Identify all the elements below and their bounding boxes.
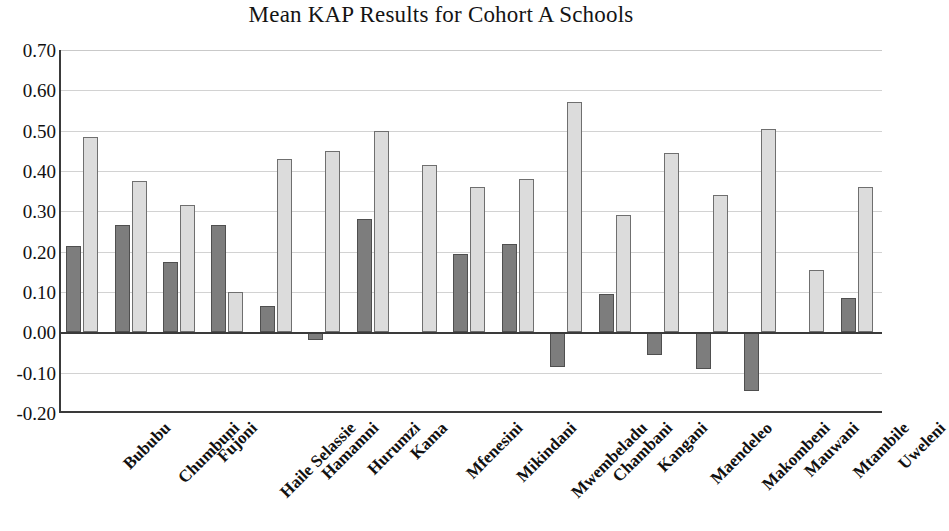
bar-series-2 xyxy=(761,129,776,333)
y-axis-tick-label: 0.40 xyxy=(4,162,56,181)
bar-group xyxy=(351,50,399,413)
bar-series-2 xyxy=(713,195,728,332)
bar-series-2 xyxy=(180,205,195,332)
bar-group xyxy=(497,50,545,413)
bar-group xyxy=(642,50,690,413)
bar-series-2 xyxy=(83,137,98,333)
bar-group xyxy=(787,50,835,413)
y-axis-tick-label: 0.30 xyxy=(4,202,56,221)
bar-group xyxy=(448,50,496,413)
bar-series-2 xyxy=(228,292,243,332)
bar-group xyxy=(545,50,593,413)
x-axis: BububuChumbuniFujoniHaile SelassieHamamn… xyxy=(59,413,882,531)
bar-group xyxy=(206,50,254,413)
bar-series-1 xyxy=(357,219,372,332)
bar-group xyxy=(836,50,882,413)
bar-series-1 xyxy=(647,332,662,354)
bar-series-2 xyxy=(858,187,873,332)
bar-group xyxy=(400,50,448,413)
chart-title: Mean KAP Results for Cohort A Schools xyxy=(0,2,882,28)
x-axis-tick-label: Bububu xyxy=(120,419,174,473)
bar-series-1 xyxy=(115,225,130,332)
y-axis-tick-label: 0.60 xyxy=(4,81,56,100)
y-axis-tick-label: -0.20 xyxy=(4,404,56,423)
bar-series-1 xyxy=(453,254,468,333)
bar-group xyxy=(739,50,787,413)
bar-series-2 xyxy=(567,102,582,332)
bar-series-1 xyxy=(744,332,759,390)
bar-series-1 xyxy=(260,306,275,332)
bar-group xyxy=(255,50,303,413)
zero-axis-line xyxy=(61,332,882,334)
bar-series-1 xyxy=(502,244,517,333)
bar-series-1 xyxy=(841,298,856,332)
bar-group xyxy=(61,50,109,413)
y-axis-tick-label: -0.10 xyxy=(4,364,56,383)
bar-series-2 xyxy=(809,270,824,333)
bar-series-1 xyxy=(66,246,81,333)
y-axis-tick-label: 0.00 xyxy=(4,323,56,342)
plot-area xyxy=(59,50,882,413)
bar-series-1 xyxy=(599,294,614,332)
y-axis-tick-label: 0.50 xyxy=(4,122,56,141)
bar-series-1 xyxy=(550,332,565,366)
bar-series-2 xyxy=(374,131,389,333)
y-axis-tick-label: 0.70 xyxy=(4,41,56,60)
bar-group xyxy=(109,50,157,413)
bar-group xyxy=(303,50,351,413)
bar-group xyxy=(690,50,738,413)
bar-series-2 xyxy=(277,159,292,332)
bar-series-2 xyxy=(664,153,679,332)
bar-series-1 xyxy=(163,262,178,333)
bar-series-2 xyxy=(616,215,631,332)
bar-series-2 xyxy=(422,165,437,332)
bar-series-2 xyxy=(132,181,147,332)
bar-series-1 xyxy=(696,332,711,368)
bar-series-2 xyxy=(519,179,534,332)
y-axis-tick-label: 0.20 xyxy=(4,243,56,262)
bar-group xyxy=(158,50,206,413)
bar-series-2 xyxy=(470,187,485,332)
y-axis-tick-label: 0.10 xyxy=(4,283,56,302)
bar-group xyxy=(594,50,642,413)
bar-series-1 xyxy=(211,225,226,332)
bar-series-2 xyxy=(325,151,340,333)
y-axis: 0.700.600.500.400.300.200.100.00-0.10-0.… xyxy=(0,50,56,413)
